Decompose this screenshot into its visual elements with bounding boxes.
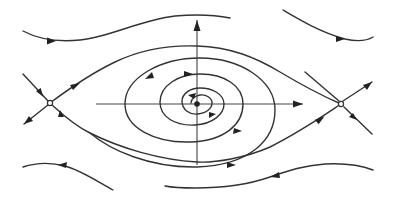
right-saddle-incoming-upper xyxy=(305,72,339,101)
phase-portrait-diagram xyxy=(0,0,395,200)
x-axis-arrow-icon xyxy=(293,101,303,108)
left-saddle-incoming-upper xyxy=(23,74,48,101)
y-axis-arrow-icon xyxy=(194,20,201,31)
right-saddle-incoming-lower xyxy=(344,107,372,134)
lower-separatrix xyxy=(50,103,341,162)
arrow-icon xyxy=(188,93,196,99)
arrow-icon xyxy=(145,72,154,79)
left-saddle-point xyxy=(47,100,52,105)
arrow-icon xyxy=(184,71,193,77)
arrow-icon xyxy=(336,36,345,42)
arrow-icon xyxy=(47,38,56,45)
arrow-icon xyxy=(363,82,372,90)
arrow-icon xyxy=(227,162,236,168)
spiral-trajectory xyxy=(90,58,275,167)
center-focus-point xyxy=(194,101,200,107)
arrow-icon xyxy=(270,172,280,178)
arrow-icon xyxy=(349,113,357,120)
arrow-icon xyxy=(70,83,80,90)
upper-separatrix xyxy=(50,46,341,104)
bottom-left-outer-trajectory xyxy=(23,163,113,190)
arrow-icon xyxy=(233,128,242,134)
arrow-icon xyxy=(209,112,216,118)
right-saddle-point xyxy=(338,101,343,106)
top-right-outer-trajectory xyxy=(283,10,373,40)
arrow-icon xyxy=(58,162,67,168)
